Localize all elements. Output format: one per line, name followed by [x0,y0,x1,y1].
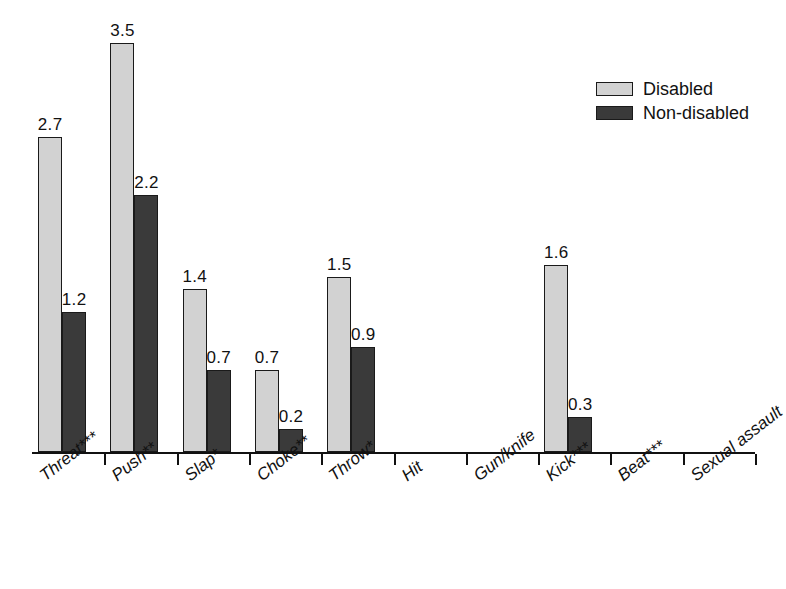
bar-group: 1.60.3 [544,20,592,452]
x-axis-label-hit: Hit [398,457,426,485]
legend-swatch-non-disabled-icon [596,106,633,120]
bar-group: 3.52.2 [110,20,158,452]
bar-value-label: 1.6 [534,244,578,261]
bar-rect [544,265,568,452]
bar-non-disabled: 2.2 [134,195,158,452]
legend-swatch-disabled-icon [596,82,633,96]
bar-value-label: 0.7 [245,349,289,366]
bar-non-disabled: 1.2 [62,312,86,452]
bar-non-disabled: 0.9 [351,347,375,452]
legend: Disabled Non-disabled [596,78,749,126]
bar-group [400,20,448,452]
bar-value-label: 2.2 [124,174,168,191]
bar-group: 2.71.2 [38,20,86,452]
bar-group [472,20,520,452]
legend-item-non-disabled: Non-disabled [596,102,749,124]
x-axis-tick [394,454,396,465]
bar-value-label: 1.2 [52,291,96,308]
bar-value-label: 1.4 [173,268,217,285]
bar-value-label: 3.5 [100,22,144,39]
bar-rect [327,277,351,452]
bar-group: 0.70.2 [255,20,303,452]
bar-value-label: 1.5 [317,256,361,273]
bar-value-label: 0.7 [197,349,241,366]
bar-group: 1.50.9 [327,20,375,452]
bar-disabled: 1.6 [544,265,568,452]
x-axis-tick [177,454,179,465]
bar-rect [62,312,86,452]
bar-rect [351,347,375,452]
x-axis-tick [321,454,323,465]
x-axis-tick [610,454,612,465]
bar-non-disabled: 0.7 [207,370,231,452]
bar-value-label: 0.9 [341,326,385,343]
bar-disabled: 3.5 [110,43,134,452]
bar-disabled: 1.4 [183,289,207,452]
bar-value-label: 0.2 [269,408,313,425]
legend-label-non-disabled: Non-disabled [643,104,749,122]
x-axis-tick [466,454,468,465]
bar-value-label: 0.3 [558,396,602,413]
bar-group: 1.40.7 [183,20,231,452]
bar-rect [134,195,158,452]
bar-value-label: 2.7 [28,116,72,133]
x-axis-tick [755,454,757,465]
x-axis-tick [104,454,106,465]
legend-label-disabled: Disabled [643,80,713,98]
legend-item-disabled: Disabled [596,78,749,100]
bar-rect [110,43,134,452]
bar-rect [207,370,231,452]
x-axis-tick [249,454,251,465]
x-axis-tick [683,454,685,465]
x-axis-tick [538,454,540,465]
bar-rect [183,289,207,452]
bar-disabled: 1.5 [327,277,351,452]
